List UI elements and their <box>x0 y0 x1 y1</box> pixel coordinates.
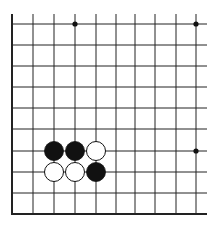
board-grid <box>11 14 207 214</box>
black-stone <box>45 142 64 161</box>
white-stone <box>66 163 85 182</box>
star-point <box>72 21 77 26</box>
star-point <box>193 21 198 26</box>
black-stone <box>66 142 85 161</box>
white-stone <box>45 163 64 182</box>
white-stone <box>87 142 106 161</box>
star-point <box>193 148 198 153</box>
go-board <box>0 0 223 236</box>
black-stone <box>87 163 106 182</box>
